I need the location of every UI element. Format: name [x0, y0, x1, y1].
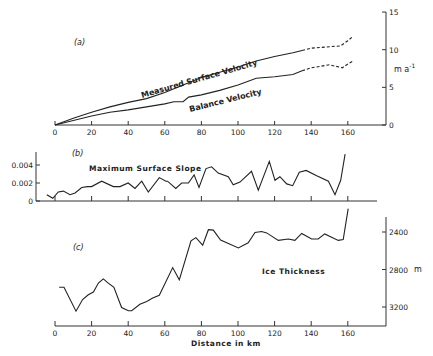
y-tick-label: 3200	[389, 303, 408, 312]
panel-c-unit: m	[414, 265, 422, 274]
x-tick-label: 120	[267, 128, 282, 137]
x-tick-label: 0	[53, 329, 58, 338]
x-tick-label: 40	[123, 329, 133, 338]
y-tick-label: 0	[389, 121, 394, 130]
panel-c-label: (c)	[73, 243, 84, 252]
y-tick-label: 0	[28, 197, 33, 206]
series-line	[55, 71, 302, 125]
x-tick-label: 100	[231, 128, 246, 137]
x-tick-label: 60	[160, 329, 170, 338]
x-tick-label: 140	[304, 329, 319, 338]
x-tick-label: 80	[197, 329, 207, 338]
x-tick-label: 100	[231, 329, 246, 338]
slope-label: Maximum Surface Slope	[89, 164, 202, 173]
series-line	[302, 36, 353, 50]
y-tick-label: 2400	[389, 228, 408, 237]
y-tick-label: 0.002	[12, 179, 34, 188]
x-tick-label: 140	[304, 128, 319, 137]
ice-sheet-profile-figure: 020406080100120140160 051015 (a) Measure…	[0, 0, 433, 356]
x-tick-label: 0	[53, 128, 58, 137]
x-tick-label: 160	[341, 329, 356, 338]
panel-b-slope: 00.0020.004 (b) Maximum Surface Slope	[12, 149, 377, 206]
series-line	[47, 154, 345, 198]
panel-a-unit: m a-1	[394, 62, 415, 74]
series-line	[59, 209, 348, 312]
series-line	[302, 61, 353, 71]
x-tick-label: 120	[267, 329, 282, 338]
panel-b-label: (b)	[72, 149, 83, 158]
x-axis-label: Distance in km	[191, 339, 261, 348]
panel-c-x-ticks: 020406080100120140160	[53, 321, 356, 338]
x-tick-label: 20	[87, 128, 97, 137]
x-tick-label: 20	[87, 329, 97, 338]
panel-b-series	[47, 154, 345, 198]
panel-c-thickness: 020406080100120140160 240028003200 (c) I…	[53, 209, 422, 348]
thickness-label: Ice Thickness	[262, 267, 325, 276]
x-tick-label: 80	[197, 128, 207, 137]
panel-a-x-ticks: 020406080100120140160	[53, 121, 356, 137]
panel-a-velocity: 020406080100120140160 051015 (a) Measure…	[53, 8, 416, 137]
panel-b-x-ticks	[55, 196, 348, 201]
panel-a-label: (a)	[74, 38, 85, 47]
x-tick-label: 40	[123, 128, 133, 137]
x-tick-label: 160	[341, 128, 356, 137]
y-tick-label: 10	[389, 46, 399, 55]
balance-velocity-label: Balance Velocity	[188, 87, 263, 114]
x-tick-label: 60	[160, 128, 170, 137]
y-tick-label: 0.004	[12, 161, 34, 170]
y-tick-label: 2800	[389, 266, 408, 275]
y-tick-label: 15	[389, 8, 399, 17]
y-tick-label: 5	[389, 83, 394, 92]
panel-c-series	[59, 209, 348, 312]
